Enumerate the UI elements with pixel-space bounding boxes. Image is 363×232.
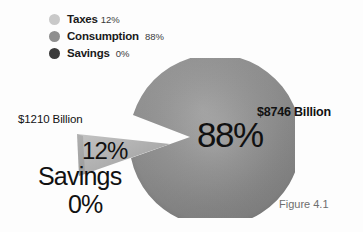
callout-savings-label: Savings [38,164,121,189]
chart-legend: Taxes 12% Consumption 88% Savings 0% [49,11,239,62]
legend-percent-taxes: 12% [101,14,120,25]
callout-savings-percent: 0% [68,192,103,217]
circle-icon-savings [49,48,60,59]
callout-consumption-amount: $8746 Billion [257,105,331,119]
circle-icon-consumption [49,31,60,42]
legend-item-taxes[interactable]: Taxes 12% [49,11,239,27]
callout-consumption-percent: 88% [197,117,263,152]
legend-percent-savings: 0% [116,48,130,59]
callout-taxes-percent: 12% [82,139,128,163]
callout-taxes-amount: $1210 Billion [18,113,83,125]
legend-label-taxes: Taxes [67,13,98,25]
circle-icon-taxes [49,14,60,25]
legend-item-consumption[interactable]: Consumption 88% [49,28,239,44]
figure-caption: Figure 4.1 [279,198,329,210]
legend-label-consumption: Consumption [67,30,139,42]
figure-container: Taxes 12% Consumption 88% Savings 0% [0,0,363,232]
legend-percent-consumption: 88% [145,31,164,42]
